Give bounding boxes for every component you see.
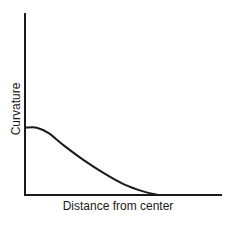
x-axis-label: Distance from center	[63, 199, 174, 213]
y-axis-label: Curvature	[9, 82, 23, 135]
curvature-chart: Curvature Distance from center	[0, 0, 237, 227]
curvature-curve	[25, 127, 159, 195]
